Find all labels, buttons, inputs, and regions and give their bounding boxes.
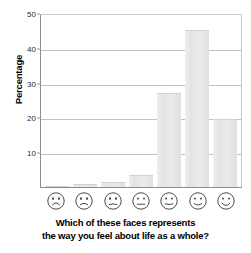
face-slot	[72, 191, 97, 211]
x-axis-face-labels	[40, 191, 242, 211]
caption-line-1: Which of these faces represents	[0, 216, 251, 229]
caption-line-2: the way you feel about life as a whole?	[0, 229, 251, 242]
face-slot	[44, 191, 69, 211]
bar-2[interactable]	[73, 184, 97, 187]
y-tick-label: 50	[27, 10, 36, 19]
face-happy-icon	[188, 191, 208, 211]
bar-slot	[129, 15, 153, 187]
chart-caption: Which of these faces represents the way …	[0, 216, 251, 242]
bar-4[interactable]	[129, 175, 153, 187]
bar-slot	[101, 15, 125, 187]
face-slightly-happy-icon	[159, 191, 179, 211]
face-slot	[185, 191, 210, 211]
bar-slot	[73, 15, 97, 187]
bar-5[interactable]	[157, 93, 181, 187]
bar-3[interactable]	[101, 182, 125, 187]
bar-6[interactable]	[185, 30, 209, 187]
bar-chart: Percentage 1020304050 Which of these fac…	[0, 0, 251, 253]
y-axis-ticks: 1020304050	[0, 0, 40, 200]
y-tick-label: 40	[27, 44, 36, 53]
face-very-unhappy-icon	[46, 191, 66, 211]
bar-series	[41, 15, 241, 187]
y-tick-label: 20	[27, 114, 36, 123]
bar-slot	[157, 15, 181, 187]
bar-1[interactable]	[45, 186, 69, 187]
face-slot	[129, 191, 154, 211]
face-slot	[214, 191, 239, 211]
face-slightly-unhappy-icon	[103, 191, 123, 211]
y-tick-label: 10	[27, 149, 36, 158]
face-neutral-icon	[131, 191, 151, 211]
face-very-happy-icon	[216, 191, 236, 211]
plot-area	[40, 14, 242, 188]
bar-slot	[213, 15, 237, 187]
face-slot	[157, 191, 182, 211]
face-slot	[100, 191, 125, 211]
bar-slot	[185, 15, 209, 187]
bar-slot	[45, 15, 69, 187]
y-tick-label: 30	[27, 79, 36, 88]
bar-7[interactable]	[213, 119, 237, 187]
face-unhappy-icon	[74, 191, 94, 211]
